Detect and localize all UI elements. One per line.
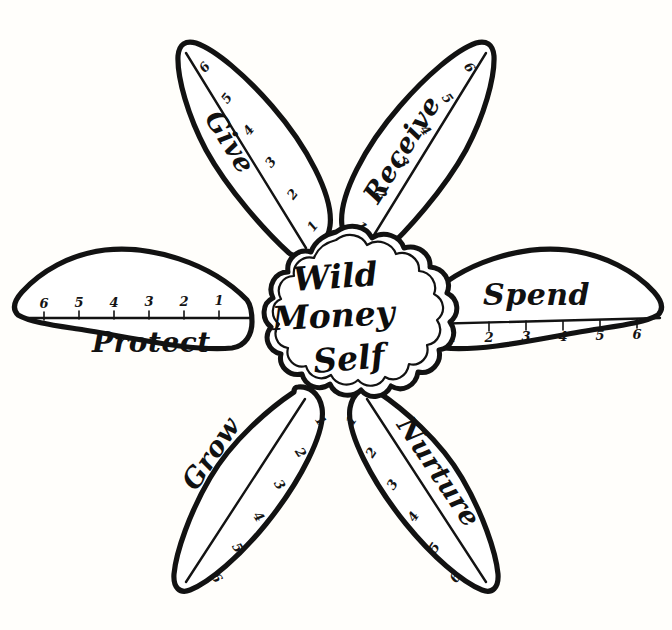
- petal-protect-scale-2: 2: [178, 294, 188, 309]
- center-line-money: Money: [270, 293, 398, 339]
- petal-protect-scale-5: 5: [74, 295, 83, 310]
- petal-give[interactable]: 6 5 4 3 2 1 Give: [178, 42, 330, 255]
- petal-spend-scale-6: 6: [632, 327, 641, 342]
- petal-protect[interactable]: 6 5 4 3 2 1 Protect: [15, 249, 252, 359]
- center-line-self: Self: [312, 336, 391, 382]
- petal-spend-label: Spend: [483, 277, 590, 312]
- flower-diagram: 6 5 4 3 2 1 Protect 1 2 3 4 5: [0, 0, 672, 630]
- petal-spend[interactable]: 1 2 3 4 5 6 Spend: [424, 249, 662, 349]
- petal-protect-scale-6: 6: [39, 296, 48, 311]
- petal-spend-scale-5: 5: [595, 328, 604, 343]
- petal-protect-scale-1: 1: [214, 293, 223, 308]
- petal-nurture[interactable]: 1 2 3 4 5 6 Nurture: [342, 387, 498, 591]
- worksheet-canvas: 6 5 4 3 2 1 Protect 1 2 3 4 5: [0, 0, 672, 630]
- petal-spend-scale-2: 2: [483, 330, 493, 345]
- petal-spend-scale-3: 3: [521, 329, 530, 344]
- center-line-wild: Wild: [292, 254, 379, 299]
- petal-grow[interactable]: 1 2 3 4 5 6 Grow: [174, 387, 330, 591]
- petal-protect-scale-4: 4: [109, 295, 118, 310]
- petal-protect-scale-3: 3: [144, 294, 153, 309]
- petal-protect-label: Protect: [91, 326, 211, 359]
- petal-nurture-outline: [350, 387, 499, 591]
- petal-spend-scale-4: 4: [558, 329, 567, 344]
- petal-receive[interactable]: 6 5 4 3 2 1 Receive: [342, 42, 494, 255]
